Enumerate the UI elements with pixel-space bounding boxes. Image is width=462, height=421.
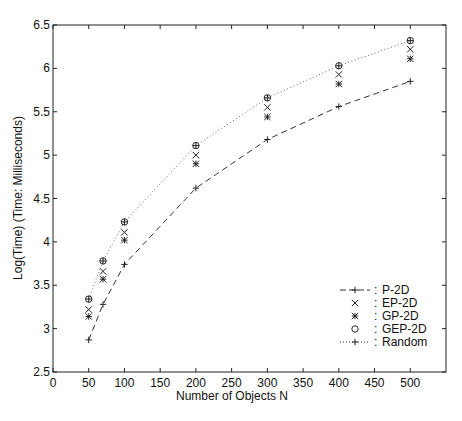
legend-item-gep-2d: :GEP-2D <box>352 322 427 336</box>
legend-label: GP-2D <box>382 309 419 323</box>
x-tick-label: 50 <box>82 376 96 390</box>
svg-text::: : <box>374 283 377 297</box>
y-tick-label: 2.5 <box>33 365 50 379</box>
series-random <box>86 37 414 302</box>
y-tick-label: 6.5 <box>33 18 50 32</box>
series-gp-2d <box>86 56 414 320</box>
y-tick-label: 4.5 <box>33 192 50 206</box>
y-axis-label: Log(Time) (Time: Milliseconds) <box>11 116 25 280</box>
x-tick-label: 250 <box>222 376 242 390</box>
y-tick-label: 5 <box>43 148 50 162</box>
y-tick-label: 6 <box>43 61 50 75</box>
y-tick-label: 5.5 <box>33 105 50 119</box>
x-tick-label: 500 <box>400 376 420 390</box>
legend-label: EP-2D <box>382 296 418 310</box>
plot-area <box>86 37 414 343</box>
svg-text::: : <box>374 322 377 336</box>
x-tick-label: 150 <box>150 376 170 390</box>
x-tick-label: 300 <box>257 376 277 390</box>
x-tick-label: 0 <box>50 376 57 390</box>
legend-label: P-2D <box>382 283 410 297</box>
y-tick-label: 3 <box>43 322 50 336</box>
series-gep-2d <box>86 37 414 302</box>
legend-item-ep-2d: :EP-2D <box>352 296 418 310</box>
y-tick-label: 3.5 <box>33 278 50 292</box>
legend-label: Random <box>382 335 427 349</box>
legend-item-gp-2d: :GP-2D <box>352 309 419 323</box>
x-tick-label: 350 <box>293 376 313 390</box>
series-p-2d <box>86 78 414 343</box>
x-tick-label: 400 <box>329 376 349 390</box>
svg-text::: : <box>374 296 377 310</box>
legend-label: GEP-2D <box>382 322 427 336</box>
y-tick-label: 4 <box>43 235 50 249</box>
x-tick-label: 100 <box>114 376 134 390</box>
legend-item-random: :Random <box>340 335 427 349</box>
chart: 0501001502002503003504004505002.533.544.… <box>0 0 462 421</box>
legend-item-p-2d: :P-2D <box>340 283 410 297</box>
x-tick-label: 200 <box>186 376 206 390</box>
x-tick-label: 450 <box>365 376 385 390</box>
legend: :P-2D:EP-2D:GP-2D:GEP-2D:Random <box>340 283 427 349</box>
series-ep-2d <box>86 46 414 313</box>
x-axis-label: Number of Objects N <box>176 389 288 403</box>
svg-text::: : <box>374 335 377 349</box>
svg-text::: : <box>374 309 377 323</box>
